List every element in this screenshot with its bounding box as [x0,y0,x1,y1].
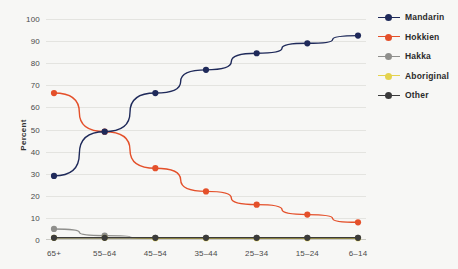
legend-item-other[interactable]: Other [378,90,449,100]
plot-area: 0102030405060708090100 65+55–6445–5435–4… [46,19,366,240]
data-point [254,235,260,241]
data-point [102,129,108,135]
data-point [304,211,310,217]
x-tick-label: 45–54 [144,249,167,258]
series-hokkien [51,90,361,225]
legend-item-hakka[interactable]: Hakka [378,51,449,61]
legend-marker-icon [378,91,400,100]
data-point [254,50,260,56]
legend-item-label: Aboriginal [405,71,449,81]
data-point [152,165,158,171]
data-point [203,188,209,194]
legend-item-mandarin[interactable]: Mandarin [378,12,449,22]
legend-marker-icon [378,13,400,22]
legend-item-label: Other [405,90,429,100]
data-point [254,202,260,208]
legend-marker-icon [378,52,400,61]
y-tick-label: 20 [31,191,40,200]
y-tick-label: 30 [31,169,40,178]
legend-marker-icon [378,71,400,80]
legend-item-label: Mandarin [405,12,444,22]
y-tick-label: 50 [31,125,40,134]
y-tick-label: 40 [31,147,40,156]
y-tick-label: 60 [31,103,40,112]
y-tick-label: 70 [31,81,40,90]
x-tick-label: 35–44 [194,249,217,258]
legend-marker-icon [378,32,400,41]
y-tick-label: 0 [35,236,40,245]
data-point [102,235,108,241]
y-axis-title: Percent [19,119,28,150]
data-point [355,32,361,38]
data-point [203,67,209,73]
x-tick-label: 25–34 [245,249,268,258]
data-point [304,40,310,46]
data-point [203,235,209,241]
x-tick-label: 65+ [47,249,61,258]
legend-item-aboriginal[interactable]: Aboriginal [378,71,449,81]
data-point [51,226,57,232]
y-tick-label: 90 [31,37,40,46]
x-tick-label: 55–64 [93,249,116,258]
data-point [152,90,158,96]
y-tick-label: 10 [31,213,40,222]
data-point [152,235,158,241]
series-mandarin [51,32,361,179]
y-tick-label: 100 [26,15,40,24]
data-point [51,173,57,179]
data-point [355,235,361,241]
y-tick-label: 80 [31,59,40,68]
x-tick-label: 15–24 [296,249,319,258]
line-chart: Percent 0102030405060708090100 65+55–644… [0,0,458,269]
data-point [355,219,361,225]
x-tick-label: 6–14 [349,249,368,258]
legend-item-label: Hokkien [405,32,439,42]
data-point [51,90,57,96]
data-point [51,235,57,241]
series-layer [46,19,366,240]
legend: MandarinHokkienHakkaAboriginalOther [378,12,449,100]
legend-item-label: Hakka [405,51,431,61]
legend-item-hokkien[interactable]: Hokkien [378,32,449,42]
data-point [304,235,310,241]
